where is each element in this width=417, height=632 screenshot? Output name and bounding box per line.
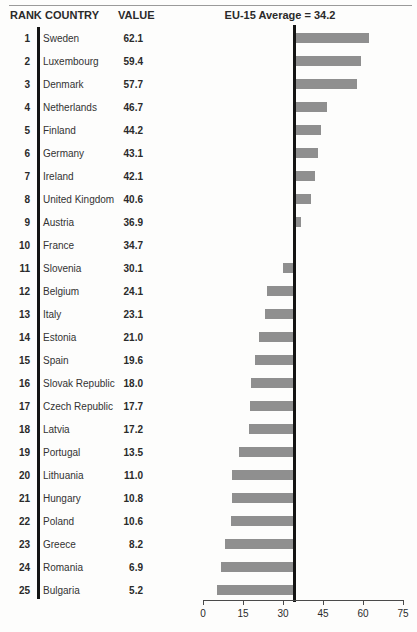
table-row: 18Latvia17.2 bbox=[0, 418, 417, 441]
value-cell: 57.7 bbox=[99, 73, 143, 96]
rank-cell: 7 bbox=[0, 165, 30, 188]
rank-cell: 1 bbox=[0, 27, 30, 50]
value-cell: 17.7 bbox=[99, 395, 143, 418]
value-cell: 5.2 bbox=[99, 579, 143, 602]
table-row: 13Italy23.1 bbox=[0, 303, 417, 326]
rank-cell: 21 bbox=[0, 487, 30, 510]
deviation-bar bbox=[232, 470, 294, 480]
rank-cell: 25 bbox=[0, 579, 30, 602]
rank-cell: 17 bbox=[0, 395, 30, 418]
value-cell: 59.4 bbox=[99, 50, 143, 73]
table-row: 16Slovak Republic18.0 bbox=[0, 372, 417, 395]
rank-cell: 22 bbox=[0, 510, 30, 533]
table-row: 23Greece8.2 bbox=[0, 533, 417, 556]
table-row: 19Portugal13.5 bbox=[0, 441, 417, 464]
rank-cell: 9 bbox=[0, 211, 30, 234]
deviation-bar bbox=[267, 286, 294, 296]
deviation-bar bbox=[232, 493, 294, 503]
value-cell: 8.2 bbox=[99, 533, 143, 556]
table-row: 2Luxembourg59.4 bbox=[0, 50, 417, 73]
average-line-label: EU-15 Average = 34.2 bbox=[200, 8, 360, 22]
x-axis-tick bbox=[403, 601, 404, 605]
table-row: 7Ireland42.1 bbox=[0, 165, 417, 188]
x-axis-tick-label: 30 bbox=[268, 608, 298, 619]
deviation-bar bbox=[294, 194, 311, 204]
value-cell: 23.1 bbox=[99, 303, 143, 326]
rank-cell: 4 bbox=[0, 96, 30, 119]
rank-cell: 12 bbox=[0, 280, 30, 303]
table-row: 21Hungary10.8 bbox=[0, 487, 417, 510]
rank-cell: 14 bbox=[0, 326, 30, 349]
value-cell: 11.0 bbox=[99, 464, 143, 487]
table-row: 25Bulgaria5.2 bbox=[0, 579, 417, 602]
deviation-bar bbox=[221, 562, 294, 572]
rank-cell: 16 bbox=[0, 372, 30, 395]
rank-cell: 24 bbox=[0, 556, 30, 579]
deviation-bar bbox=[294, 171, 315, 181]
rank-cell: 19 bbox=[0, 441, 30, 464]
rank-cell: 13 bbox=[0, 303, 30, 326]
value-cell: 62.1 bbox=[99, 27, 143, 50]
deviation-bar bbox=[231, 516, 294, 526]
deviation-bar bbox=[265, 309, 295, 319]
rank-cell: 3 bbox=[0, 73, 30, 96]
table-row: 17Czech Republic17.7 bbox=[0, 395, 417, 418]
table-row: 24Romania6.9 bbox=[0, 556, 417, 579]
table-row: 10France34.7 bbox=[0, 234, 417, 257]
rank-cell: 10 bbox=[0, 234, 30, 257]
x-axis-tick-label: 15 bbox=[228, 608, 258, 619]
x-axis-tick bbox=[363, 601, 364, 605]
deviation-bar bbox=[294, 102, 327, 112]
value-cell: 13.5 bbox=[99, 441, 143, 464]
table-row: 20Lithuania11.0 bbox=[0, 464, 417, 487]
rank-cell: 15 bbox=[0, 349, 30, 372]
value-cell: 43.1 bbox=[99, 142, 143, 165]
rank-cell: 11 bbox=[0, 257, 30, 280]
table-row: 15Spain19.6 bbox=[0, 349, 417, 372]
x-axis-line bbox=[203, 600, 404, 601]
deviation-bar bbox=[239, 447, 294, 457]
table-row: 5Finland44.2 bbox=[0, 119, 417, 142]
table-row: 3Denmark57.7 bbox=[0, 73, 417, 96]
rank-cell: 5 bbox=[0, 119, 30, 142]
rank-cell: 2 bbox=[0, 50, 30, 73]
deviation-bar bbox=[249, 424, 294, 434]
value-cell: 46.7 bbox=[99, 96, 143, 119]
deviation-bar bbox=[225, 539, 294, 549]
value-cell: 18.0 bbox=[99, 372, 143, 395]
value-cell: 34.7 bbox=[99, 234, 143, 257]
rank-cell: 18 bbox=[0, 418, 30, 441]
table-row: 6Germany43.1 bbox=[0, 142, 417, 165]
x-axis-tick-label: 60 bbox=[348, 608, 378, 619]
top-divider bbox=[9, 5, 412, 6]
deviation-bar bbox=[294, 125, 321, 135]
deviation-bar bbox=[255, 355, 294, 365]
ranked-bar-chart-page: RANK COUNTRY VALUE EU-15 Average = 34.2 … bbox=[0, 0, 417, 632]
value-cell: 17.2 bbox=[99, 418, 143, 441]
table-row: 9Austria36.9 bbox=[0, 211, 417, 234]
average-reference-line bbox=[293, 25, 296, 602]
value-cell: 30.1 bbox=[99, 257, 143, 280]
table-row: 8United Kingdom40.6 bbox=[0, 188, 417, 211]
value-cell: 40.6 bbox=[99, 188, 143, 211]
table-row: 22Poland10.6 bbox=[0, 510, 417, 533]
value-cell: 6.9 bbox=[99, 556, 143, 579]
value-cell: 19.6 bbox=[99, 349, 143, 372]
value-cell: 21.0 bbox=[99, 326, 143, 349]
x-axis-tick-label: 75 bbox=[388, 608, 417, 619]
column-header-value: VALUE bbox=[118, 8, 154, 22]
rank-cell: 23 bbox=[0, 533, 30, 556]
table-row: 4Netherlands46.7 bbox=[0, 96, 417, 119]
table-row: 1Sweden62.1 bbox=[0, 27, 417, 50]
x-axis-tick-label: 45 bbox=[308, 608, 338, 619]
deviation-bar bbox=[259, 332, 294, 342]
table-row: 12Belgium24.1 bbox=[0, 280, 417, 303]
value-cell: 36.9 bbox=[99, 211, 143, 234]
x-axis-tick bbox=[203, 601, 204, 605]
deviation-bar bbox=[294, 56, 361, 66]
deviation-bar bbox=[251, 378, 294, 388]
rank-cell: 20 bbox=[0, 464, 30, 487]
column-header-country: COUNTRY bbox=[45, 8, 99, 22]
table-row: 11Slovenia30.1 bbox=[0, 257, 417, 280]
value-cell: 10.6 bbox=[99, 510, 143, 533]
